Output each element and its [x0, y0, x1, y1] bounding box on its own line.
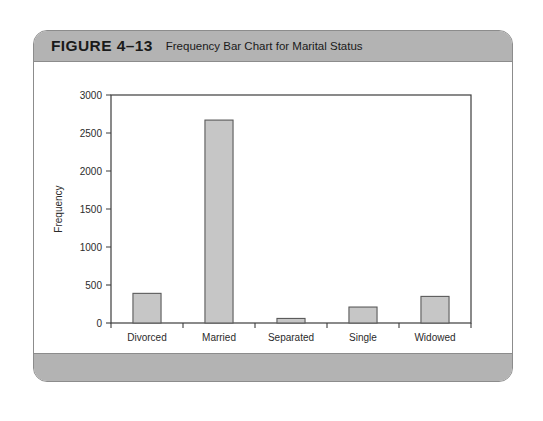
y-tick-label: 0 [96, 318, 102, 329]
figure-header: FIGURE 4–13 Frequency Bar Chart for Mari… [34, 31, 512, 62]
figure-caption: Frequency Bar Chart for Marital Status [166, 40, 363, 52]
figure-footer [34, 353, 512, 381]
bar-separated [277, 318, 305, 323]
x-tick-label: Single [349, 332, 377, 343]
plot-frame [111, 95, 471, 323]
bar-divorced [133, 293, 161, 323]
bar-married [205, 120, 233, 323]
y-tick-label: 1500 [80, 204, 103, 215]
y-tick-label: 2000 [80, 166, 103, 177]
y-axis-title: Frequency [53, 185, 64, 232]
figure-number: FIGURE 4–13 [51, 37, 153, 55]
x-tick-label: Divorced [127, 332, 166, 343]
x-tick-label: Widowed [414, 332, 455, 343]
y-tick-label: 500 [85, 280, 102, 291]
bar-widowed [421, 296, 449, 323]
bar-chart: 050010001500200025003000FrequencyDivorce… [34, 62, 512, 353]
figure-card: FIGURE 4–13 Frequency Bar Chart for Mari… [33, 30, 513, 382]
y-tick-label: 3000 [80, 90, 103, 101]
bar-single [349, 307, 377, 323]
x-tick-label: Separated [268, 332, 314, 343]
chart-svg: 050010001500200025003000FrequencyDivorce… [34, 62, 513, 355]
y-tick-label: 2500 [80, 128, 103, 139]
x-tick-label: Married [202, 332, 236, 343]
y-tick-label: 1000 [80, 242, 103, 253]
